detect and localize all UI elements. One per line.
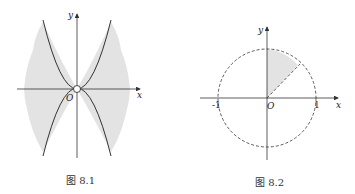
origin-label: O (267, 101, 275, 111)
x-axis-label: x (137, 90, 142, 100)
y-axis-label: y (257, 25, 264, 35)
origin-label: O (66, 93, 74, 103)
tick-label-one: 1 (314, 100, 320, 110)
figure-8-1: y x O (17, 10, 142, 158)
shaded-sector (267, 49, 298, 98)
x-axis-label: x (336, 100, 341, 110)
shaded-region-left (24, 22, 77, 152)
y-axis-label: y (67, 10, 74, 20)
shaded-region-right (77, 22, 130, 152)
tick-label-neg-one: -1 (212, 100, 221, 110)
figure-8-2: y x O -1 1 (200, 25, 341, 160)
caption-figure-8-2: 图 8.2 (255, 174, 284, 189)
figures-canvas: y x O y x O -1 1 (0, 0, 355, 194)
origin-open-point (74, 86, 81, 93)
caption-figure-8-1: 图 8.1 (66, 172, 95, 187)
